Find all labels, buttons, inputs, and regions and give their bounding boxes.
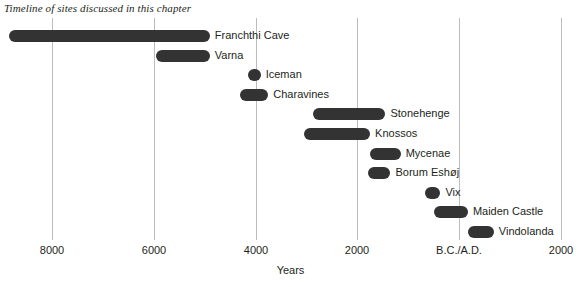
timeline-bar-row: Iceman [0, 69, 581, 81]
x-axis-title: Years [0, 264, 581, 276]
timeline-bar-row: Borum Eshøj [0, 167, 581, 179]
timeline-bar-label: Maiden Castle [473, 203, 543, 220]
timeline-bar-row: Charavines [0, 89, 581, 101]
timeline-bar-label: Iceman [266, 66, 302, 83]
x-tick-label: B.C./A.D. [436, 244, 482, 256]
timeline-bar-label: Mycenae [406, 145, 451, 162]
timeline-bar-label: Vindolanda [499, 223, 554, 240]
timeline-bar[interactable] [9, 30, 210, 42]
timeline-bar-label: Vix [445, 184, 460, 201]
timeline-bar-row: Maiden Castle [0, 206, 581, 218]
timeline-bar[interactable] [434, 206, 468, 218]
timeline-bar-row: Mycenae [0, 148, 581, 160]
timeline-bar-label: Knossos [375, 125, 417, 142]
timeline-bar-label: Stonehenge [390, 105, 449, 122]
chart-title: Timeline of sites discussed in this chap… [4, 2, 191, 14]
x-tick-label: 2000 [549, 244, 573, 256]
timeline-bar[interactable] [304, 128, 370, 140]
timeline-bar-row: Vindolanda [0, 226, 581, 238]
timeline-bar-label: Charavines [273, 86, 329, 103]
timeline-bar-row: Knossos [0, 128, 581, 140]
timeline-bar[interactable] [368, 167, 391, 179]
x-tick-label: 2000 [345, 244, 369, 256]
timeline-bar-row: Stonehenge [0, 108, 581, 120]
timeline-bar[interactable] [156, 50, 209, 62]
timeline-bar-label: Borum Eshøj [396, 164, 460, 181]
timeline-bar-row: Varna [0, 50, 581, 62]
x-tick-label: 8000 [40, 244, 64, 256]
x-tick-label: 6000 [142, 244, 166, 256]
timeline-bar-label: Varna [215, 47, 244, 64]
timeline-bar[interactable] [313, 108, 386, 120]
timeline-bar-label: Franchthi Cave [215, 27, 290, 44]
timeline-bar[interactable] [468, 226, 494, 238]
timeline-bar[interactable] [240, 89, 268, 101]
timeline-chart: Timeline of sites discussed in this chap… [0, 0, 581, 287]
timeline-bar-row: Vix [0, 187, 581, 199]
timeline-bar[interactable] [425, 187, 441, 199]
timeline-bar[interactable] [248, 69, 261, 81]
x-tick-label: 4000 [244, 244, 268, 256]
timeline-bar-row: Franchthi Cave [0, 30, 581, 42]
timeline-bar[interactable] [370, 148, 401, 160]
